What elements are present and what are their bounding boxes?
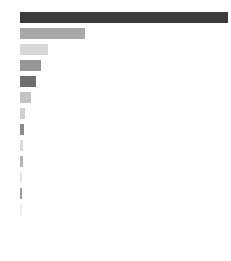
bar-5[interactable] bbox=[20, 76, 36, 87]
bar-13[interactable] bbox=[20, 204, 22, 215]
bar-8[interactable] bbox=[20, 124, 24, 135]
bar-4[interactable] bbox=[20, 60, 41, 71]
bar-row bbox=[0, 108, 231, 119]
bar-3[interactable] bbox=[20, 44, 48, 55]
plot-area bbox=[0, 0, 231, 261]
bar-row bbox=[0, 12, 231, 23]
bar-row bbox=[0, 44, 231, 55]
bar-1[interactable] bbox=[20, 12, 228, 23]
bar-row bbox=[0, 140, 231, 151]
bar-chart bbox=[0, 0, 231, 261]
bar-row bbox=[0, 172, 231, 183]
bar-7[interactable] bbox=[20, 108, 25, 119]
bar-row bbox=[0, 204, 231, 215]
bar-row bbox=[0, 156, 231, 167]
bar-row bbox=[0, 60, 231, 71]
bar-12[interactable] bbox=[20, 188, 22, 199]
bar-9[interactable] bbox=[20, 140, 23, 151]
bar-row bbox=[0, 124, 231, 135]
bar-row bbox=[0, 188, 231, 199]
bar-10[interactable] bbox=[20, 156, 23, 167]
bar-2[interactable] bbox=[20, 28, 85, 39]
bar-row bbox=[0, 92, 231, 103]
bar-6[interactable] bbox=[20, 92, 31, 103]
bar-row bbox=[0, 28, 231, 39]
bar-row bbox=[0, 76, 231, 87]
bar-11[interactable] bbox=[20, 172, 22, 183]
